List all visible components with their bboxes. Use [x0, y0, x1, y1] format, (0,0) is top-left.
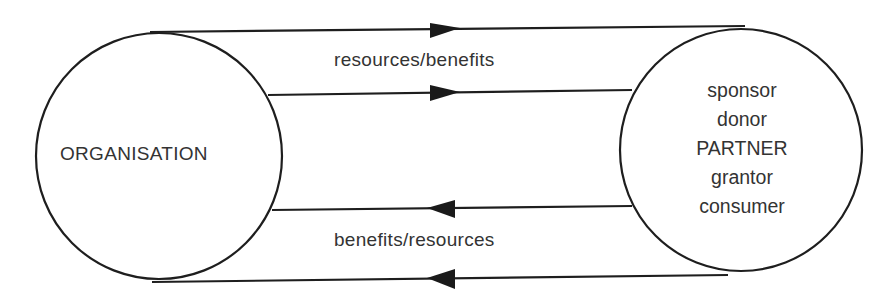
- arrow-left-icon: [427, 269, 455, 289]
- arrow-right-icon: [430, 23, 460, 38]
- partner-role-consumer: consumer: [680, 192, 804, 221]
- partner-role-sponsor: sponsor: [680, 76, 804, 105]
- organisation-label: ORGANISATION: [60, 143, 208, 165]
- partner-role-list: sponsor donor PARTNER grantor consumer: [680, 76, 804, 221]
- partner-role-partner: PARTNER: [680, 134, 804, 163]
- partner-role-donor: donor: [680, 105, 804, 134]
- incoming-flow-label: benefits/resources: [334, 229, 495, 251]
- arrow-right-icon: [430, 85, 460, 101]
- arrow-left-icon: [427, 200, 455, 218]
- outgoing-flow-label: resources/benefits: [334, 49, 495, 71]
- partner-role-grantor: grantor: [680, 163, 804, 192]
